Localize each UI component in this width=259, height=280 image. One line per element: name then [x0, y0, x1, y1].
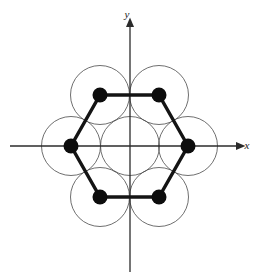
hexagon-vertex-upper-left-dot [93, 88, 108, 103]
hexagon-vertex-lower-right-dot [152, 190, 167, 205]
circle-packing-diagram: x y [0, 0, 259, 280]
hexagon-vertex-right-dot [181, 139, 196, 154]
hexagon-vertex-upper-right-dot [152, 88, 167, 103]
hexagon-vertex-lower-left-dot [93, 190, 108, 205]
figure-container: x y [0, 0, 259, 280]
x-axis-label: x [244, 139, 250, 151]
y-axis-label: y [124, 8, 130, 20]
hexagon-vertex-left-dot [64, 139, 79, 154]
axes-group [10, 26, 237, 272]
